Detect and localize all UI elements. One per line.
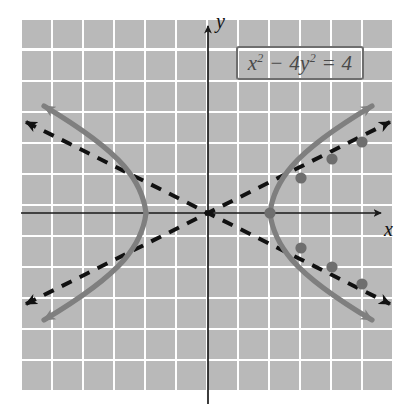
equation-label-box: x2 − 4y2 = 4 <box>236 46 364 80</box>
equation-text: x2 − 4y2 = 4 <box>248 51 353 76</box>
marked-point-upper-2 <box>326 153 337 164</box>
marked-point-lower-3 <box>356 278 367 289</box>
graph-figure: x2 − 4y2 = 4 y x <box>0 0 409 417</box>
marked-point-upper-3 <box>356 136 367 147</box>
marked-point-vertex <box>264 207 275 218</box>
y-axis-label: y <box>216 10 225 33</box>
x-axis-label: x <box>384 218 393 241</box>
marked-point-lower-1 <box>295 242 306 253</box>
marked-point-lower-2 <box>326 261 337 272</box>
marked-point-upper-1 <box>295 172 306 183</box>
